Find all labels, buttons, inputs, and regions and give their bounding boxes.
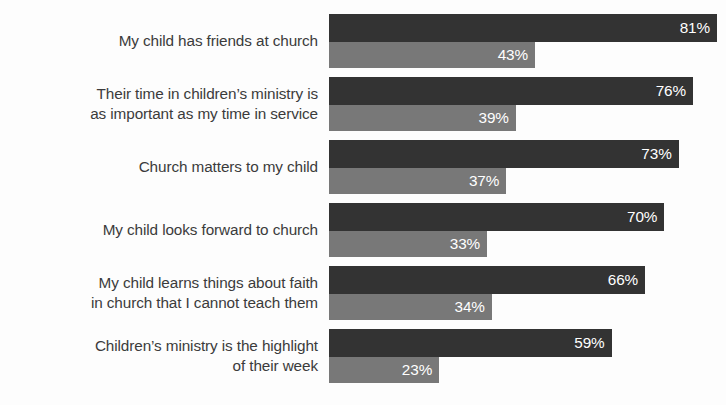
- category-label: My child looks forward to church: [0, 220, 318, 240]
- bar-pair: 66%34%: [329, 266, 645, 320]
- bar-value-label: 34%: [455, 299, 492, 314]
- bar-value-label: 73%: [641, 146, 678, 161]
- bar-secondary: 33%: [329, 231, 487, 257]
- bar-primary: 73%: [329, 140, 679, 168]
- category-label: My child has friends at church: [0, 31, 318, 51]
- bar-value-label: 43%: [498, 47, 535, 62]
- category-label: Their time in children’s ministry is as …: [0, 84, 318, 124]
- bar-secondary: 34%: [329, 294, 492, 320]
- bar-secondary: 39%: [329, 105, 516, 131]
- bar-value-label: 37%: [469, 173, 506, 188]
- bar-primary: 81%: [329, 14, 717, 42]
- bar-secondary: 23%: [329, 357, 439, 383]
- bar-value-label: 59%: [574, 335, 611, 350]
- bar-value-label: 66%: [608, 272, 645, 287]
- bar-primary: 66%: [329, 266, 645, 294]
- bar-value-label: 39%: [478, 110, 515, 125]
- category-label: My child learns things about faith in ch…: [0, 273, 318, 313]
- bar-primary: 59%: [329, 329, 612, 357]
- bar-primary: 76%: [329, 77, 693, 105]
- bar-pair: 81%43%: [329, 14, 717, 68]
- bar-value-label: 81%: [680, 20, 717, 35]
- bar-secondary: 43%: [329, 42, 535, 68]
- bar-pair: 73%37%: [329, 140, 679, 194]
- bar-secondary: 37%: [329, 168, 506, 194]
- bar-chart: My child has friends at church81%43%Thei…: [0, 0, 726, 405]
- bar-pair: 59%23%: [329, 329, 612, 383]
- bar-pair: 70%33%: [329, 203, 664, 257]
- bar-pair: 76%39%: [329, 77, 693, 131]
- bar-primary: 70%: [329, 203, 664, 231]
- bar-value-label: 76%: [656, 83, 693, 98]
- bar-value-label: 23%: [402, 362, 439, 377]
- category-label: Church matters to my child: [0, 157, 318, 177]
- bar-value-label: 70%: [627, 209, 664, 224]
- bar-value-label: 33%: [450, 236, 487, 251]
- category-label: Children’s ministry is the highlight of …: [0, 336, 318, 376]
